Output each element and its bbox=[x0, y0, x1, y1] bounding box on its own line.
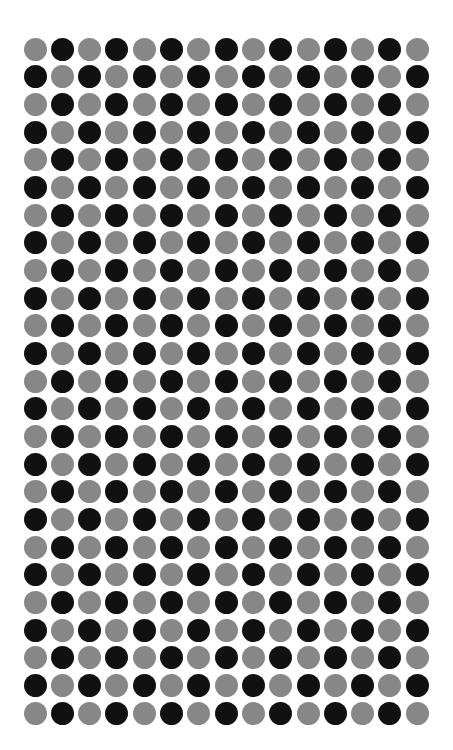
gray-dot bbox=[269, 453, 292, 476]
black-dot bbox=[269, 148, 292, 171]
gray-dot bbox=[406, 38, 429, 61]
gray-dot bbox=[215, 397, 238, 420]
gray-dot bbox=[269, 231, 292, 254]
gray-dot bbox=[242, 591, 265, 614]
gray-dot bbox=[160, 453, 183, 476]
black-dot bbox=[324, 646, 347, 669]
gray-dot bbox=[269, 619, 292, 642]
gray-dot bbox=[215, 287, 238, 310]
gray-dot bbox=[78, 204, 101, 227]
gray-dot bbox=[24, 148, 47, 171]
gray-dot bbox=[187, 38, 210, 61]
black-dot bbox=[297, 121, 320, 144]
gray-dot bbox=[378, 397, 401, 420]
gray-dot bbox=[78, 314, 101, 337]
black-dot bbox=[105, 38, 128, 61]
black-dot bbox=[187, 397, 210, 420]
black-dot bbox=[51, 425, 74, 448]
black-dot bbox=[215, 148, 238, 171]
gray-dot bbox=[215, 619, 238, 642]
black-dot bbox=[269, 591, 292, 614]
black-dot bbox=[51, 314, 74, 337]
black-dot bbox=[242, 397, 265, 420]
black-dot bbox=[324, 204, 347, 227]
gray-dot bbox=[51, 342, 74, 365]
black-dot bbox=[351, 453, 374, 476]
gray-dot bbox=[187, 702, 210, 725]
gray-dot bbox=[242, 370, 265, 393]
gray-dot bbox=[351, 591, 374, 614]
black-dot bbox=[133, 453, 156, 476]
black-dot bbox=[297, 65, 320, 88]
gray-dot bbox=[51, 453, 74, 476]
gray-dot bbox=[160, 176, 183, 199]
gray-dot bbox=[187, 370, 210, 393]
gray-dot bbox=[351, 536, 374, 559]
gray-dot bbox=[297, 536, 320, 559]
black-dot bbox=[406, 176, 429, 199]
gray-dot bbox=[324, 287, 347, 310]
gray-dot bbox=[351, 425, 374, 448]
black-dot bbox=[51, 38, 74, 61]
gray-dot bbox=[24, 93, 47, 116]
black-dot bbox=[378, 425, 401, 448]
black-dot bbox=[215, 536, 238, 559]
black-dot bbox=[24, 563, 47, 586]
gray-dot bbox=[24, 702, 47, 725]
black-dot bbox=[105, 259, 128, 282]
gray-dot bbox=[242, 93, 265, 116]
black-dot bbox=[24, 176, 47, 199]
black-dot bbox=[297, 674, 320, 697]
gray-dot bbox=[78, 480, 101, 503]
black-dot bbox=[24, 674, 47, 697]
gray-dot bbox=[133, 204, 156, 227]
black-dot bbox=[160, 148, 183, 171]
black-dot bbox=[351, 65, 374, 88]
gray-dot bbox=[215, 121, 238, 144]
gray-dot bbox=[133, 425, 156, 448]
black-dot bbox=[351, 674, 374, 697]
black-dot bbox=[105, 425, 128, 448]
black-dot bbox=[406, 397, 429, 420]
gray-dot bbox=[297, 204, 320, 227]
gray-dot bbox=[51, 397, 74, 420]
black-dot bbox=[133, 397, 156, 420]
black-dot bbox=[297, 231, 320, 254]
gray-dot bbox=[378, 508, 401, 531]
gray-dot bbox=[324, 176, 347, 199]
gray-dot bbox=[378, 674, 401, 697]
gray-dot bbox=[160, 231, 183, 254]
black-dot bbox=[51, 702, 74, 725]
gray-dot bbox=[133, 536, 156, 559]
gray-dot bbox=[242, 259, 265, 282]
black-dot bbox=[378, 148, 401, 171]
gray-dot bbox=[242, 38, 265, 61]
gray-dot bbox=[324, 619, 347, 642]
gray-dot bbox=[133, 38, 156, 61]
gray-dot bbox=[378, 619, 401, 642]
gray-dot bbox=[78, 370, 101, 393]
gray-dot bbox=[406, 425, 429, 448]
black-dot bbox=[78, 674, 101, 697]
black-dot bbox=[24, 231, 47, 254]
black-dot bbox=[160, 425, 183, 448]
gray-dot bbox=[378, 563, 401, 586]
gray-dot bbox=[324, 65, 347, 88]
gray-dot bbox=[24, 314, 47, 337]
black-dot bbox=[269, 536, 292, 559]
gray-dot bbox=[187, 591, 210, 614]
gray-dot bbox=[24, 204, 47, 227]
gray-dot bbox=[297, 702, 320, 725]
black-dot bbox=[160, 93, 183, 116]
gray-dot bbox=[160, 342, 183, 365]
black-dot bbox=[187, 619, 210, 642]
gray-dot bbox=[215, 342, 238, 365]
gray-dot bbox=[105, 508, 128, 531]
gray-dot bbox=[269, 674, 292, 697]
black-dot bbox=[378, 93, 401, 116]
gray-dot bbox=[324, 453, 347, 476]
gray-dot bbox=[24, 646, 47, 669]
gray-dot bbox=[160, 121, 183, 144]
black-dot bbox=[187, 508, 210, 531]
gray-dot bbox=[297, 314, 320, 337]
